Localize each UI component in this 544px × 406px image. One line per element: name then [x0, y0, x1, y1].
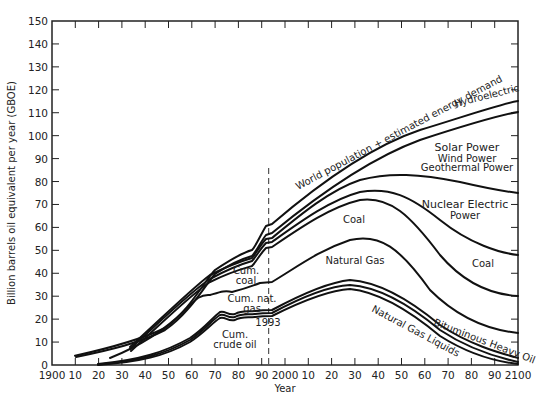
- y-tick-label: 100: [28, 130, 48, 142]
- cum-oil-label-2: crude oil: [213, 339, 256, 350]
- x-tick-label: 60: [418, 369, 431, 381]
- x-tick-label: 30: [348, 369, 361, 381]
- y-tick-label: 80: [35, 176, 48, 188]
- y-tick-label: 20: [35, 313, 48, 325]
- y-tick-label: 90: [35, 153, 48, 165]
- x-tick-label: 60: [185, 369, 198, 381]
- x-tick-label: 50: [162, 369, 175, 381]
- y-tick-label: 70: [35, 198, 48, 210]
- x-tick-label: 30: [115, 369, 128, 381]
- x-axis-title: Year: [273, 383, 296, 394]
- x-tick-label: 2100: [505, 369, 532, 381]
- year-marker-label: 1993: [255, 317, 280, 328]
- x-tick-label: 10: [69, 369, 82, 381]
- x-tick-label: 90: [255, 369, 268, 381]
- x-tick-label: 1900: [39, 369, 66, 381]
- energy-chart: 0102030405060708090100110120130140150 19…: [0, 0, 544, 406]
- plot-frame: [52, 21, 518, 365]
- x-tick-label: 20: [325, 369, 338, 381]
- y-tick-label: 10: [35, 336, 48, 348]
- x-tick-label: 80: [232, 369, 245, 381]
- x-tick-label: 2000: [272, 369, 299, 381]
- y-tick-label: 150: [28, 15, 48, 27]
- y-tick-label: 40: [35, 267, 48, 279]
- y-tick-label: 130: [28, 61, 48, 73]
- x-tick-label: 40: [139, 369, 152, 381]
- x-tick-label: 20: [92, 369, 105, 381]
- coal-label-right: Coal: [472, 258, 494, 269]
- natural-gas-label: Natural Gas: [325, 255, 384, 266]
- x-tick-label: 70: [441, 369, 454, 381]
- y-tick-label: 120: [28, 84, 48, 96]
- x-tick-label: 40: [372, 369, 385, 381]
- coal-label-mid: Coal: [343, 214, 365, 225]
- cum-coal-label-2: coal: [236, 275, 257, 286]
- y-axis-title: Billion barrels oil equivalent per year …: [6, 81, 17, 305]
- y-tick-label: 60: [35, 221, 48, 233]
- x-tick-label: 10: [302, 369, 315, 381]
- y-tick-label: 110: [28, 107, 48, 119]
- cum-gas-label-2: gas: [243, 303, 261, 314]
- nuclear-power-label: Power: [450, 210, 481, 221]
- x-tick-label: 90: [488, 369, 501, 381]
- x-tick-label: 70: [208, 369, 221, 381]
- geothermal-label: Geothermal Power: [421, 162, 514, 173]
- x-tick-label: 50: [395, 369, 408, 381]
- x-tick-label: 80: [465, 369, 478, 381]
- y-tick-label: 30: [35, 290, 48, 302]
- y-tick-label: 50: [35, 244, 48, 256]
- y-tick-label: 140: [28, 38, 48, 50]
